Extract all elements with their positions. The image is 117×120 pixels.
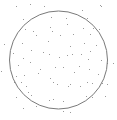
scatter-point xyxy=(31,95,32,96)
scatter-point xyxy=(92,97,93,98)
scatter-point xyxy=(100,5,101,6)
scatter-point xyxy=(18,65,19,66)
scatter-point xyxy=(107,84,108,85)
scatter-point xyxy=(25,29,26,30)
scatter-point xyxy=(92,83,93,84)
scatter-point xyxy=(88,59,89,60)
scatter-point xyxy=(93,28,94,29)
scatter-point xyxy=(98,74,99,75)
scatter-point xyxy=(81,54,82,55)
scatter-point xyxy=(23,58,24,59)
scatter-point xyxy=(96,45,97,46)
scatter-point xyxy=(73,34,74,35)
scatter-point xyxy=(82,10,83,11)
scatter-point xyxy=(66,18,67,19)
scatter-point xyxy=(90,34,91,35)
scatter-point xyxy=(67,55,68,56)
diagram-canvas xyxy=(0,0,117,120)
scatter-point xyxy=(113,63,114,64)
scatter-point xyxy=(84,43,85,44)
scatter-point xyxy=(74,72,75,73)
scatter-point xyxy=(90,51,91,52)
scatter-point xyxy=(30,4,31,5)
scatter-point xyxy=(40,69,41,70)
scatter-plot xyxy=(0,0,117,120)
scatter-point xyxy=(79,66,80,67)
scatter-point xyxy=(67,24,68,25)
scatter-point xyxy=(50,78,51,79)
scatter-point xyxy=(63,67,64,68)
scatter-point xyxy=(83,28,84,29)
scatter-point xyxy=(80,86,81,87)
scatter-point xyxy=(57,84,58,85)
scatter-point xyxy=(31,50,32,51)
scatter-point xyxy=(16,76,17,77)
scatter-point xyxy=(43,52,44,53)
scatter-point xyxy=(55,67,56,68)
scatter-point xyxy=(72,54,73,55)
scatter-point xyxy=(38,73,39,74)
scatter-point xyxy=(28,92,29,93)
scatter-point xyxy=(87,18,88,19)
scatter-point xyxy=(24,75,25,76)
scatter-point xyxy=(101,60,102,61)
scatter-point xyxy=(63,101,64,102)
scatter-point xyxy=(86,96,87,97)
scatter-point xyxy=(63,111,64,112)
scatter-point xyxy=(30,62,31,63)
scatter-point xyxy=(44,6,45,7)
scatter-point xyxy=(99,29,100,30)
scatter-point xyxy=(70,112,71,113)
scatter-point xyxy=(87,82,88,83)
scatter-point xyxy=(53,82,54,83)
scatter-point xyxy=(36,35,37,36)
scatter-point xyxy=(52,31,53,32)
scatter-point xyxy=(70,46,71,47)
scatter-point xyxy=(101,6,102,7)
scatter-point xyxy=(49,100,50,101)
scatter-point xyxy=(23,19,24,20)
scatter-point xyxy=(70,84,71,85)
scatter-point xyxy=(53,99,54,100)
scatter-point xyxy=(26,86,27,87)
scatter-point xyxy=(60,35,61,36)
scatter-point xyxy=(50,27,51,28)
scatter-point xyxy=(33,31,34,32)
scatter-point xyxy=(21,82,22,83)
scatter-point xyxy=(4,44,5,45)
scatter-point xyxy=(1,71,2,72)
scatter-point xyxy=(68,86,69,87)
scatter-point xyxy=(59,57,60,58)
scatter-point xyxy=(36,106,37,107)
scatter-point xyxy=(105,96,106,97)
scatter-point xyxy=(23,108,24,109)
scatter-point xyxy=(16,97,17,98)
scatter-point xyxy=(89,69,90,70)
scatter-point xyxy=(49,54,50,55)
scatter-point xyxy=(22,43,23,44)
scatter-point xyxy=(16,6,17,7)
background xyxy=(0,0,117,120)
scatter-point xyxy=(48,41,49,42)
scatter-point xyxy=(13,53,14,54)
scatter-point xyxy=(51,17,52,18)
